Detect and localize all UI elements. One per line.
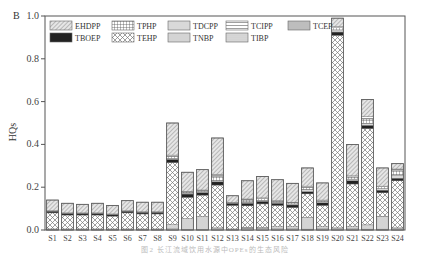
legend-swatch xyxy=(288,21,310,30)
bar-segment-tboep xyxy=(242,203,254,206)
x-tick-label: S14 xyxy=(241,234,253,243)
bar-s16 xyxy=(272,180,284,230)
bar-segment-tcipp xyxy=(362,117,374,119)
bar-s2 xyxy=(62,203,74,230)
bar-segment-tnbp xyxy=(287,227,299,229)
legend-label: TDCPP xyxy=(193,22,218,31)
legend-swatch xyxy=(50,21,72,30)
figure-caption: 图2 长江流域饮用水源中OPEs的生态风险 xyxy=(0,244,430,254)
x-tick-label: S4 xyxy=(93,234,101,243)
bar-segment-tnbp xyxy=(347,227,359,229)
legend-swatch xyxy=(226,21,248,30)
bar-s22 xyxy=(362,99,374,230)
bar-s20 xyxy=(332,18,344,230)
y-tick-label: 0.4 xyxy=(27,138,40,149)
x-tick-label: S11 xyxy=(196,234,208,243)
x-tick-label: S15 xyxy=(256,234,268,243)
legend: EHDPPTPHPTDCPPTCIPPTCEPTBOEPTEHPTNBPTIBP xyxy=(50,21,333,43)
bar-segment-ehdpp xyxy=(152,202,164,212)
bar-segment-tehp xyxy=(212,185,224,228)
legend-label: TPHP xyxy=(137,22,157,31)
bar-s23 xyxy=(377,168,389,230)
legend-label: TNBP xyxy=(193,34,214,43)
y-axis-label: HQs xyxy=(7,123,18,141)
bar-segment-tphp xyxy=(377,187,389,189)
bar-segment-ehdpp xyxy=(62,203,74,213)
legend-item-tphp: TPHP xyxy=(112,21,157,31)
bar-s3 xyxy=(77,204,89,230)
bar-segment-tehp xyxy=(317,205,329,226)
bar-segment-tphp xyxy=(212,177,224,181)
bar-segment-ehdpp xyxy=(242,181,254,199)
x-tick-label: S7 xyxy=(138,234,146,243)
legend-swatch xyxy=(168,33,190,42)
legend-swatch xyxy=(168,21,190,30)
bar-segment-ehdpp xyxy=(362,99,374,116)
bar-segment-tboep xyxy=(77,213,89,215)
bar-segment-ehdpp xyxy=(392,164,404,169)
bar-segment-ehdpp xyxy=(272,180,284,201)
bar-s8 xyxy=(152,202,164,230)
y-axis: 0.00.20.40.60.81.0 xyxy=(27,10,46,235)
legend-item-tibp: TIBP xyxy=(226,33,269,43)
bar-segment-ehdpp xyxy=(167,123,179,155)
x-tick-label: S10 xyxy=(181,234,193,243)
bar-segment-tehp xyxy=(392,181,404,228)
bar-segment-tboep xyxy=(287,205,299,208)
bar-segment-tdcpp xyxy=(392,175,404,178)
bar-segment-tehp xyxy=(377,193,389,217)
x-tick-label: S24 xyxy=(391,234,403,243)
x-tick-label: S9 xyxy=(168,234,176,243)
y-tick-label: 0.8 xyxy=(27,53,40,64)
x-tick-label: S12 xyxy=(211,234,223,243)
bar-segment-ehdpp xyxy=(122,201,134,211)
legend-swatch xyxy=(226,33,248,42)
bar-segment-tboep xyxy=(272,203,284,205)
x-tick-label: S5 xyxy=(108,234,116,243)
bar-segment-tehp xyxy=(287,208,299,227)
y-tick-label: 0.0 xyxy=(27,224,40,235)
bar-segment-tphp xyxy=(362,119,374,123)
x-tick-label: S23 xyxy=(376,234,388,243)
bar-segment-tehp xyxy=(197,195,209,216)
bar-segment-tboep xyxy=(347,181,359,184)
bar-segment-tboep xyxy=(182,194,194,197)
bar-segment-ehdpp xyxy=(227,196,239,202)
bar-segment-ehdpp xyxy=(92,203,104,213)
bar-segment-tehp xyxy=(257,204,269,228)
bar-segment-tehp xyxy=(182,197,194,218)
bar-s24 xyxy=(392,164,404,230)
bar-segment-ehdpp xyxy=(332,18,344,27)
bar-segment-tnbp xyxy=(317,227,329,229)
bar-segment-tphp xyxy=(167,156,179,158)
bar-segment-tcipp xyxy=(392,169,404,171)
bar-segment-tphp xyxy=(257,199,269,201)
bar-segment-tboep xyxy=(362,125,374,128)
bar-segment-ehdpp xyxy=(137,202,149,212)
legend-item-tdcpp: TDCPP xyxy=(168,21,218,31)
x-tick-label: S21 xyxy=(346,234,358,243)
bar-segment-tcipp xyxy=(212,174,224,176)
x-tick-label: S2 xyxy=(63,234,71,243)
bar-segment-ehdpp xyxy=(182,172,194,191)
x-tick-label: S13 xyxy=(226,234,238,243)
bar-segment-tnbp xyxy=(197,217,209,230)
bar-segment-tehp xyxy=(137,214,149,229)
bar-s1 xyxy=(47,200,59,230)
bar-segment-tboep xyxy=(107,214,119,216)
bar-segment-tphp xyxy=(392,171,404,175)
legend-swatch xyxy=(112,21,134,30)
bar-segment-tehp xyxy=(227,205,239,229)
bar-segment-ehdpp xyxy=(317,183,329,200)
bar-segment-tnbp xyxy=(167,225,179,229)
bar-s10 xyxy=(182,172,194,230)
bar-segment-tboep xyxy=(122,211,134,213)
bar-segment-tphp xyxy=(242,200,254,202)
y-tick-label: 1.0 xyxy=(27,10,40,21)
bar-segment-tehp xyxy=(107,216,119,229)
bar-segment-tehp xyxy=(152,214,164,229)
bar-segment-tnbp xyxy=(302,217,314,229)
x-tick-label: S6 xyxy=(123,234,131,243)
bar-segment-tehp xyxy=(62,215,74,229)
bar-segment-tehp xyxy=(332,35,344,228)
